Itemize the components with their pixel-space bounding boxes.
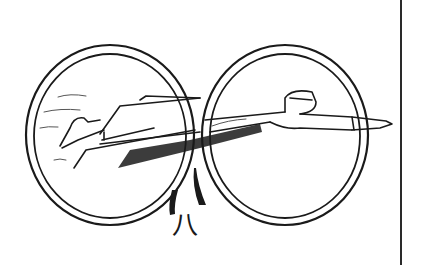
swimmer-figure bbox=[60, 91, 392, 168]
vertical-divider bbox=[400, 0, 402, 265]
caption-label: 八 bbox=[172, 212, 198, 238]
swimmer-illustration bbox=[0, 0, 421, 265]
